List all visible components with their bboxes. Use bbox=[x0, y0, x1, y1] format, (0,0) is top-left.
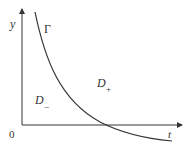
region-d-plus-letter: D bbox=[96, 76, 106, 90]
diagram-canvas: y Γ D + D − 0 t bbox=[0, 0, 187, 160]
t-axis-label: t bbox=[168, 128, 172, 140]
y-axis-label: y bbox=[9, 17, 16, 31]
curve-label: Γ bbox=[44, 22, 51, 36]
region-d-plus-sub: + bbox=[106, 84, 111, 94]
region-d-minus-letter: D bbox=[34, 93, 44, 107]
region-d-minus-sub: − bbox=[44, 102, 49, 112]
origin-label: 0 bbox=[9, 128, 15, 140]
